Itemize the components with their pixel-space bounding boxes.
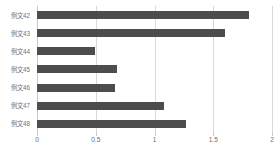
bar[interactable] (37, 65, 117, 73)
bar[interactable] (37, 29, 225, 37)
category-axis-labels: 例文42例文43例文44例文45例文46例文47例文48 (0, 6, 33, 133)
bar[interactable] (37, 102, 164, 110)
x-tick-mark (155, 133, 156, 136)
category-label: 例文47 (0, 97, 33, 115)
plot-area (37, 6, 272, 133)
bar[interactable] (37, 47, 95, 55)
bar-row (37, 42, 272, 60)
x-tick-mark (96, 133, 97, 136)
bar-row (37, 60, 272, 78)
bar[interactable] (37, 11, 249, 19)
category-label: 例文46 (0, 79, 33, 97)
bar-row (37, 79, 272, 97)
category-label: 例文43 (0, 24, 33, 42)
bar-chart: 例文42例文43例文44例文45例文46例文47例文48 00.511.52 (0, 0, 280, 153)
bar-row (37, 115, 272, 133)
bar[interactable] (37, 84, 115, 92)
category-label: 例文44 (0, 42, 33, 60)
x-tick-mark (213, 133, 214, 136)
x-tick-mark (37, 133, 38, 136)
gridline-2 (272, 6, 273, 133)
x-tick-label: 0 (35, 137, 39, 144)
x-tick-label: 2 (270, 137, 274, 144)
category-label: 例文45 (0, 60, 33, 78)
x-tick-label: 1.5 (209, 137, 218, 144)
category-label: 例文48 (0, 115, 33, 133)
bar[interactable] (37, 120, 186, 128)
bar-row (37, 6, 272, 24)
x-axis-tick-labels: 00.511.52 (0, 135, 280, 151)
x-tick-label: 0.5 (91, 137, 100, 144)
bar-row (37, 24, 272, 42)
x-tick-label: 1 (153, 137, 157, 144)
x-tick-mark (272, 133, 273, 136)
category-label: 例文42 (0, 6, 33, 24)
bar-row (37, 97, 272, 115)
